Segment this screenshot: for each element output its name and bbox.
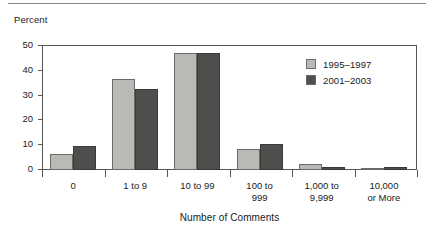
- x-axis-label: 100 to999: [229, 180, 291, 203]
- x-axis-tick-mark: [355, 170, 356, 177]
- bar: [260, 144, 283, 170]
- x-axis-label-line: 1,000 to: [291, 180, 353, 192]
- x-axis-label: 0: [42, 180, 104, 192]
- y-axis-tick-label: 30: [22, 89, 33, 100]
- legend: 1995–19972001–2003: [306, 57, 371, 89]
- legend-entry: 1995–1997: [306, 57, 371, 71]
- x-axis-label: 10 to 99: [166, 180, 228, 192]
- bar-group: [43, 46, 105, 170]
- bar: [50, 154, 73, 170]
- x-axis-label-line: 0: [42, 180, 104, 192]
- x-axis-label: 1,000 to9,999: [291, 180, 353, 203]
- x-axis-label-line: 999: [229, 192, 291, 204]
- x-axis-label: 10,000or More: [353, 180, 415, 203]
- y-axis-caption: Percent: [14, 14, 47, 25]
- y-axis-tick-label: 50: [22, 39, 33, 50]
- bar: [174, 53, 197, 170]
- header-divider: [8, 3, 426, 4]
- bar: [237, 149, 260, 170]
- x-axis-tick-mark: [42, 170, 43, 177]
- x-axis-tick-mark: [230, 170, 231, 177]
- legend-label: 1995–1997: [323, 59, 371, 70]
- x-axis-label: 1 to 9: [104, 180, 166, 192]
- x-axis-label-line: 100 to: [229, 180, 291, 192]
- bar: [197, 53, 220, 170]
- x-axis-ticks: [42, 170, 417, 177]
- bar-group: [105, 46, 167, 170]
- bar: [73, 146, 96, 170]
- legend-label: 2001–2003: [323, 75, 371, 86]
- bar-group: [167, 46, 229, 170]
- y-axis-tick-label: 40: [22, 64, 33, 75]
- y-axis-tick-label: 0: [28, 163, 33, 174]
- bar: [135, 89, 158, 170]
- x-axis-label-line: 1 to 9: [104, 180, 166, 192]
- legend-swatch-2001-2003: [306, 75, 316, 85]
- legend-swatch-1995-1997: [306, 59, 316, 69]
- x-axis-title: Number of Comments: [42, 212, 417, 223]
- x-axis-label-line: or More: [353, 192, 415, 204]
- x-axis-label-line: 10 to 99: [166, 180, 228, 192]
- x-axis-tick-mark: [167, 170, 168, 177]
- bar: [112, 79, 135, 170]
- x-axis-labels: 01 to 910 to 99100 to9991,000 to9,99910,…: [42, 180, 417, 208]
- x-axis-label-line: 9,999: [291, 192, 353, 204]
- bar-group: [230, 46, 292, 170]
- x-axis-label-line: 10,000: [353, 180, 415, 192]
- y-axis-tick-label: 20: [22, 113, 33, 124]
- legend-entry: 2001–2003: [306, 73, 371, 87]
- y-axis-tick-label: 10: [22, 138, 33, 149]
- x-axis-tick-mark: [292, 170, 293, 177]
- x-axis-tick-mark: [417, 170, 418, 177]
- x-axis-tick-mark: [105, 170, 106, 177]
- y-axis: 01020304050: [0, 45, 42, 170]
